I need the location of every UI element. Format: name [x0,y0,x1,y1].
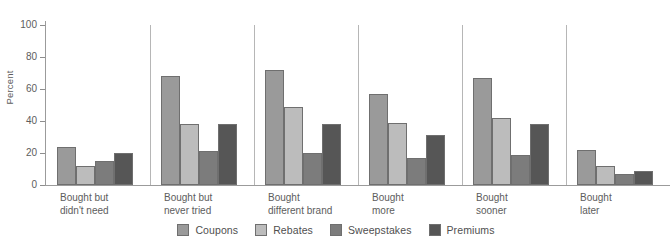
bar-group [46,25,150,185]
y-tick-mark-40 [40,121,45,122]
bar [426,135,445,185]
y-tick-label-40: 40 [11,116,37,126]
y-tick-mark-0 [40,185,45,186]
category-label-line: Bought [476,192,508,205]
y-tick-mark-60 [40,89,45,90]
bar [530,124,549,185]
bar [322,124,341,185]
bar [76,166,95,185]
category-label-line: sooner [476,205,508,218]
bar [369,94,388,185]
group-separator [358,25,359,185]
legend-label: Rebates [273,224,313,236]
bar [161,76,180,185]
legend-swatch-icon [255,224,267,236]
bar-group [566,25,670,185]
category-label-line: Bought but [164,192,212,205]
bar-chart: Percent 100806040200 Bought butdidn't ne… [0,0,672,247]
legend-swatch-icon [330,224,342,236]
category-label-line: different brand [268,205,332,218]
bar [407,158,426,185]
category-label-line: Bought [372,192,404,205]
plot-area [46,25,670,185]
legend-item-rebates[interactable]: Rebates [255,224,313,236]
category-label: Bought butdidn't need [60,192,109,217]
category-label-line: more [372,205,404,218]
y-axis-tick-labels: 100806040200 [11,0,37,247]
category-label-line: Bought but [60,192,109,205]
group-separator [566,25,567,185]
category-label: Bought butnever tried [164,192,212,217]
bar [596,166,615,185]
legend-label: Coupons [195,224,238,236]
chart-legend: CouponsRebatesSweepstakesPremiums [0,224,672,236]
bar [180,124,199,185]
category-label: Boughtlater [580,192,612,217]
x-axis-line [45,185,670,186]
legend-swatch-icon [177,224,189,236]
bar-group [254,25,358,185]
bar [57,147,76,185]
y-tick-label-20: 20 [11,148,37,158]
bar [473,78,492,185]
bar-group [150,25,254,185]
category-label-line: later [580,205,612,218]
bar [284,107,303,185]
y-tick-label-100: 100 [11,20,37,30]
bar-group [462,25,566,185]
legend-label: Sweepstakes [348,224,412,236]
bar [615,174,634,185]
bar [218,124,237,185]
category-label: Boughtmore [372,192,404,217]
bar [114,153,133,185]
bar [95,161,114,185]
legend-item-premiums[interactable]: Premiums [429,224,495,236]
y-tick-mark-20 [40,153,45,154]
legend-label: Premiums [447,224,495,236]
category-label-line: didn't need [60,205,109,218]
group-separator [150,25,151,185]
y-tick-mark-80 [40,57,45,58]
bar [634,171,653,185]
legend-item-coupons[interactable]: Coupons [177,224,238,236]
bar [492,118,511,185]
y-tick-mark-100 [40,25,45,26]
y-tick-label-60: 60 [11,84,37,94]
bar [511,155,530,185]
category-label-line: never tried [164,205,212,218]
group-separator [254,25,255,185]
bar [577,150,596,185]
category-label-line: Bought [268,192,332,205]
bar [388,123,407,185]
bar-group [358,25,462,185]
category-label: Boughtdifferent brand [268,192,332,217]
y-tick-label-80: 80 [11,52,37,62]
category-label-line: Bought [580,192,612,205]
legend-swatch-icon [429,224,441,236]
category-label: Boughtsooner [476,192,508,217]
y-tick-label-0: 0 [11,180,37,190]
bar [199,151,218,185]
bar [303,153,322,185]
legend-item-sweepstakes[interactable]: Sweepstakes [330,224,412,236]
bar [265,70,284,185]
group-separator [462,25,463,185]
